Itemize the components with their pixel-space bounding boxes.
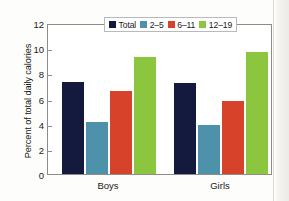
legend-item-2-5[interactable]: 2–5	[140, 20, 164, 30]
legend-label-2-5: 2–5	[150, 20, 164, 30]
chart-page: Percent of total daily calories 12 10 8 …	[0, 0, 289, 201]
bar-group-girls	[174, 25, 274, 174]
bar-group-boys	[62, 25, 162, 174]
legend-item-total[interactable]: Total	[109, 20, 136, 30]
bar-girls-12-19	[246, 52, 268, 174]
y-tick-label-2: 2	[4, 144, 44, 155]
y-tick-4	[48, 126, 52, 127]
legend-swatch-12-19-icon	[199, 21, 206, 28]
chart-legend: Total 2–5 6–11 12–19	[104, 17, 237, 32]
legend-swatch-total-icon	[109, 21, 116, 28]
y-tick-label-4: 4	[4, 119, 44, 130]
legend-item-6-11[interactable]: 6–11	[168, 20, 196, 30]
legend-label-12-19: 12–19	[209, 20, 232, 30]
x-axis-label-girls: Girls	[180, 180, 260, 191]
legend-swatch-2-5-icon	[140, 21, 147, 28]
bar-boys-6-11	[110, 91, 132, 174]
bar-girls-total	[174, 83, 196, 174]
legend-item-12-19[interactable]: 12–19	[199, 20, 232, 30]
y-tick-label-10: 10	[4, 44, 44, 55]
y-tick-label-0: 0	[4, 170, 44, 181]
bar-girls-2-5	[198, 125, 220, 174]
y-tick-10	[48, 50, 52, 51]
bar-girls-6-11	[222, 101, 244, 174]
y-tick-label-6: 6	[4, 94, 44, 105]
y-axis-tick-labels: 12 10 8 6 4 2 0	[0, 24, 44, 175]
y-tick-label-8: 8	[4, 69, 44, 80]
x-axis-label-boys: Boys	[68, 180, 148, 191]
bar-boys-12-19	[134, 57, 156, 174]
scanned-page-edge	[273, 0, 289, 201]
y-tick-8	[48, 75, 52, 76]
y-tick-label-12: 12	[4, 19, 44, 30]
bar-boys-2-5	[86, 122, 108, 174]
legend-label-total: Total	[119, 20, 137, 30]
bar-boys-total	[62, 82, 84, 174]
plot-area	[47, 24, 272, 175]
legend-label-6-11: 6–11	[177, 20, 195, 30]
y-tick-6	[48, 101, 52, 102]
legend-swatch-6-11-icon	[168, 21, 175, 28]
y-tick-2	[48, 151, 52, 152]
